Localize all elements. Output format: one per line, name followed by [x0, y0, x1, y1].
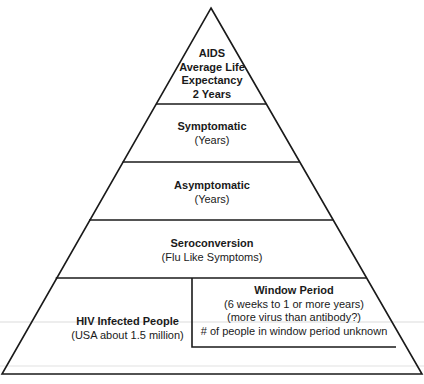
tier-aids-line-3: Expectancy — [150, 74, 274, 88]
window-period-line-2: (more virus than antibody?) — [193, 311, 395, 325]
tier-aids: AIDS Average Life Expectancy 2 Years — [150, 47, 274, 101]
tier-seroconversion-subtitle: (Flu Like Symptoms) — [90, 251, 334, 265]
tier-hiv-infected-title: HIV Infected People — [55, 315, 200, 329]
window-period-line-1: (6 weeks to 1 or more years) — [193, 298, 395, 312]
tier-seroconversion: Seroconversion (Flu Like Symptoms) — [90, 237, 334, 264]
tier-symptomatic-title: Symptomatic — [130, 120, 294, 134]
tier-aids-line-4: 2 Years — [150, 88, 274, 102]
tier-seroconversion-title: Seroconversion — [90, 237, 334, 251]
window-period: Window Period (6 weeks to 1 or more year… — [193, 284, 395, 338]
tier-symptomatic: Symptomatic (Years) — [130, 120, 294, 147]
tier-symptomatic-subtitle: (Years) — [130, 134, 294, 148]
tier-asymptomatic-title: Asymptomatic — [110, 179, 314, 193]
tier-hiv-infected: HIV Infected People (USA about 1.5 milli… — [55, 315, 200, 342]
window-period-line-3: # of people in window period unknown — [193, 325, 395, 339]
tier-hiv-infected-subtitle: (USA about 1.5 million) — [55, 329, 200, 343]
tier-asymptomatic-subtitle: (Years) — [110, 193, 314, 207]
tier-aids-line-1: AIDS — [150, 47, 274, 61]
tier-asymptomatic: Asymptomatic (Years) — [110, 179, 314, 206]
window-period-title: Window Period — [193, 284, 395, 298]
tier-aids-line-2: Average Life — [150, 61, 274, 75]
